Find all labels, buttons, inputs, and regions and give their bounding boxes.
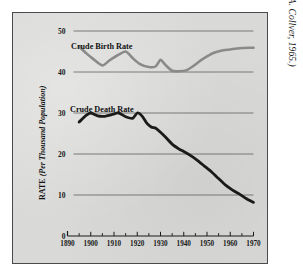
y-tick-label-30: 30 xyxy=(58,109,66,118)
y-axis-label: RATE (Per Thousand Population) xyxy=(38,85,47,200)
series-lines-group xyxy=(79,47,253,203)
y-tick-label-10: 10 xyxy=(58,191,66,200)
y-axis-label-paren: (Per Thousand Population) xyxy=(38,85,47,176)
x-tick-labels-group: 189019001910192019301940195019601970 xyxy=(60,240,261,248)
y-tick-label-50: 50 xyxy=(58,27,66,36)
attribution-note: (From O. A. Collver, 1965.) xyxy=(283,8,301,158)
series-line-crude-death-rate xyxy=(79,113,253,202)
x-tick-label-1910: 1910 xyxy=(107,240,122,248)
x-axis-group xyxy=(68,231,254,236)
attribution-text: (From O. A. Collver, 1965.) xyxy=(287,0,297,67)
figure-root: 01020304050 1890190019101920193019401950… xyxy=(0,0,303,278)
chart-canvas: 01020304050 1890190019101920193019401950… xyxy=(0,0,303,278)
series-label-death-rate: Crude Death Rate xyxy=(70,105,134,114)
series-label-birth-rate: Crude Birth Rate xyxy=(71,42,133,51)
y-tick-labels-group: 01020304050 xyxy=(58,27,66,241)
x-tick-label-1970: 1970 xyxy=(246,240,261,248)
x-tick-label-1930: 1930 xyxy=(153,240,168,248)
x-tick-label-1900: 1900 xyxy=(84,240,99,248)
x-tick-label-1960: 1960 xyxy=(223,240,238,248)
y-tick-label-20: 20 xyxy=(58,150,66,159)
x-tick-label-1950: 1950 xyxy=(200,240,215,248)
y-tick-label-40: 40 xyxy=(58,68,66,77)
x-tick-label-1890: 1890 xyxy=(60,240,75,248)
x-tick-label-1940: 1940 xyxy=(177,240,192,248)
y-axis-label-main: RATE xyxy=(38,178,47,200)
x-tick-label-1920: 1920 xyxy=(130,240,145,248)
